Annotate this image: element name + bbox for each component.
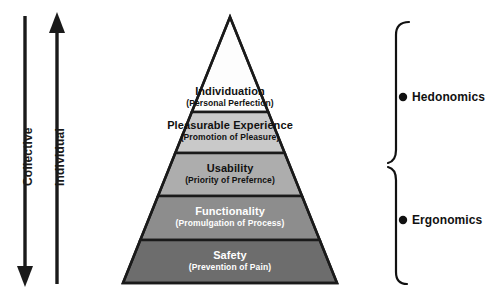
ergonomics-bracket-path [388, 167, 407, 284]
hedonomics-bracket-shape [388, 22, 409, 163]
collective-axis-label: Collective [21, 127, 35, 186]
hedonomics-bracket-dot [399, 93, 407, 101]
pyramid-label-usability: Usability (Priority of Prefernce) [130, 163, 330, 184]
pyramid-label-functionality: Functionality (Promulgation of Process) [130, 206, 330, 227]
individual-axis-label: Individual [53, 128, 67, 186]
pyramid-label-functionality-title: Functionality [130, 206, 330, 218]
individual-axis-arrowhead-up [49, 12, 65, 33]
pyramid-label-safety-title: Safety [130, 250, 330, 262]
hedonomics-bracket-path [388, 22, 409, 163]
pyramid-label-pleasurable-experience: Pleasurable Experience (Promotion of Ple… [130, 120, 330, 141]
pyramid-label-individuation-title: Individuation [130, 86, 330, 98]
pyramid-label-safety-subtitle: (Prevention of Pain) [130, 263, 330, 272]
pyramid-label-individuation: Individuation (Personal Perfection) [130, 86, 330, 107]
collective-axis-arrowhead-down [17, 266, 33, 287]
pyramid-label-pleasurable-experience-subtitle: (Promotion of Pleasure) [130, 133, 330, 142]
pyramid-label-individuation-subtitle: (Personal Perfection) [130, 99, 330, 108]
ergonomics-bracket-dot [399, 216, 407, 224]
pyramid-label-functionality-subtitle: (Promulgation of Process) [130, 219, 330, 228]
pyramid-label-pleasurable-experience-title: Pleasurable Experience [130, 120, 330, 132]
hedonomics-pyramid-figure: Collective Individual Individuation (Per… [0, 0, 496, 299]
pyramid-label-usability-title: Usability [130, 163, 330, 175]
pyramid-levels [123, 17, 337, 283]
ergonomics-bracket-label: Ergonomics [412, 213, 482, 227]
pyramid-label-safety: Safety (Prevention of Pain) [130, 250, 330, 271]
pyramid-label-usability-subtitle: (Priority of Prefernce) [130, 176, 330, 185]
hedonomics-bracket-label: Hedonomics [412, 90, 485, 104]
ergonomics-bracket-shape [388, 167, 407, 284]
